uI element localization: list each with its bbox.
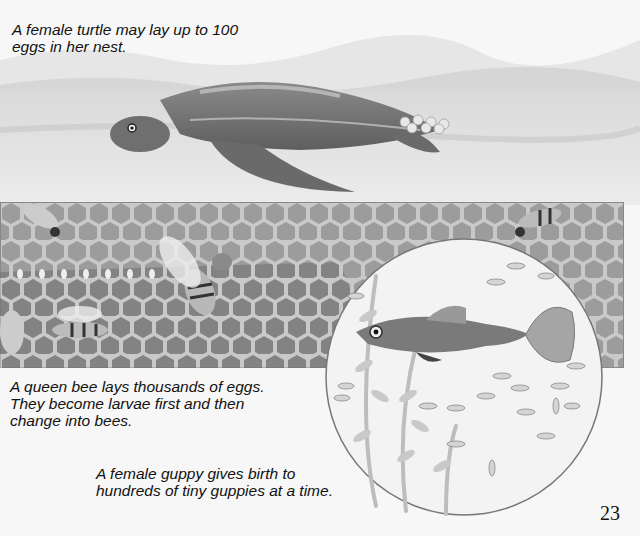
guppy-caption-line: A female guppy gives birth to — [96, 465, 295, 482]
bee-caption-line: change into bees. — [10, 412, 132, 429]
turtle-caption-line: eggs in her nest. — [12, 38, 127, 55]
bee-caption: A queen bee lays thousands of eggs. They… — [10, 378, 330, 429]
turtle-caption: A female turtle may lay up to 100 eggs i… — [12, 21, 312, 55]
turtle-illustration — [0, 30, 640, 205]
book-page: A female turtle may lay up to 100 eggs i… — [0, 0, 640, 536]
guppy-caption-line: hundreds of tiny guppies at a time. — [96, 482, 333, 499]
guppy-caption: A female guppy gives birth to hundreds o… — [96, 465, 376, 499]
bee-caption-line: A queen bee lays thousands of eggs. — [10, 378, 265, 395]
page-number: 23 — [600, 502, 620, 525]
bee-caption-line: They become larvae first and then — [10, 395, 244, 412]
turtle-caption-line: A female turtle may lay up to 100 — [12, 21, 238, 38]
